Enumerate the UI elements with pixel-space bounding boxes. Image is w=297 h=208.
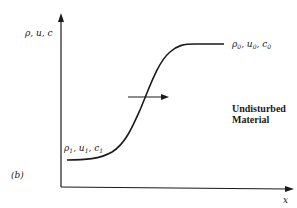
- downstream-state-label: ρ1, u1, c1: [64, 144, 103, 154]
- undisturbed-material-annotation: Undisturbed Material: [232, 103, 286, 125]
- x-axis-arrowhead-icon: [285, 186, 294, 192]
- annotation-line-2: Material: [232, 114, 286, 125]
- panel-label-text: (b): [11, 170, 24, 180]
- x-axis-label-text: x: [283, 195, 288, 205]
- propagation-arrow-head-icon: [161, 94, 169, 100]
- panel-label: (b): [11, 171, 24, 180]
- x-axis: [61, 187, 287, 189]
- x-axis-label: x: [283, 196, 288, 205]
- y-axis-label-text: ρ, u, c: [25, 28, 53, 38]
- upstream-c-sub: 0: [267, 43, 271, 50]
- upstream-state-label: ρ0, u0, c0: [232, 40, 271, 50]
- annotation-line-1: Undisturbed: [232, 103, 286, 114]
- y-axis-arrowhead-icon: [58, 13, 64, 22]
- downstream-c-sub: 1: [99, 147, 103, 154]
- y-axis-label: ρ, u, c: [25, 29, 53, 38]
